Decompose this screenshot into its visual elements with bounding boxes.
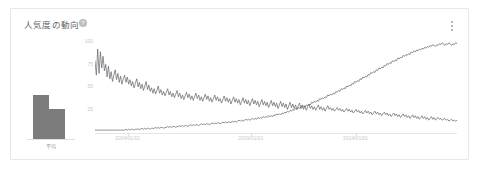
interest-over-time-card: 人気度の動向 ? 平均 100755025 2004/01/012009/01/… <box>10 8 469 160</box>
chart-series-line <box>95 49 457 121</box>
card-body: 平均 100755025 2004/01/012009/01/012014/01… <box>11 37 468 161</box>
average-baseline <box>27 139 75 140</box>
trends-line-chart <box>95 39 457 133</box>
average-bar-group <box>33 95 67 139</box>
x-axis-tick-mark <box>251 133 252 136</box>
x-axis-line <box>95 133 457 134</box>
menu-dot <box>451 29 453 31</box>
x-axis-tick-mark <box>356 133 357 136</box>
chart-surface[interactable] <box>95 39 457 133</box>
menu-dot <box>451 25 453 27</box>
card-header: 人気度の動向 ? <box>11 9 468 37</box>
y-axis-tick-label: 75 <box>79 62 93 67</box>
average-label: 平均 <box>25 142 77 149</box>
menu-dot <box>451 21 453 23</box>
page-title: 人気度の動向 <box>24 18 79 30</box>
chart-plot-area: 100755025 2004/01/012009/01/012014/01/01 <box>79 39 457 151</box>
average-bar <box>49 109 65 139</box>
average-bar <box>33 95 49 139</box>
y-axis-tick-label: 25 <box>79 107 93 112</box>
y-axis-tick-label: 50 <box>79 84 93 89</box>
help-circle-icon[interactable]: ? <box>79 19 87 27</box>
more-vert-icon[interactable] <box>446 19 458 35</box>
y-axis-tick-label: 100 <box>79 39 93 44</box>
x-axis-tick-mark <box>128 133 129 136</box>
average-indicator: 平均 <box>25 95 77 153</box>
